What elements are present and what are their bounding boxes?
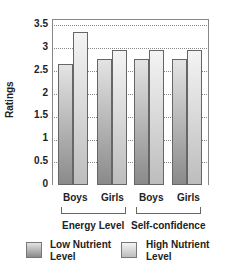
x-category: Girls xyxy=(101,192,124,203)
bar-energy-girls-high xyxy=(112,50,127,185)
x-category: Boys xyxy=(63,192,87,203)
group-label-confidence: Self-confidence xyxy=(131,220,205,231)
y-tick: 0.5 xyxy=(22,155,48,166)
legend-label-low: Low Nutrient Level xyxy=(50,239,120,263)
x-category: Girls xyxy=(177,192,200,203)
legend-swatch-low xyxy=(26,242,42,258)
y-tick: 2.5 xyxy=(22,64,48,75)
bar-confidence-boys-high xyxy=(149,50,164,185)
y-axis-label: Ratings xyxy=(4,81,15,118)
gridline xyxy=(52,25,209,26)
legend-high-line1: High Nutrient xyxy=(146,239,216,251)
group-bracket xyxy=(61,207,126,214)
legend-label-high: High Nutrient Level xyxy=(146,239,216,263)
x-category: Boys xyxy=(139,192,163,203)
legend-swatch-high xyxy=(121,242,137,258)
bar-energy-boys-low xyxy=(58,64,73,185)
y-tick: 3 xyxy=(22,41,48,52)
group-label-energy: Energy Level xyxy=(62,220,124,231)
legend-low-line1: Low Nutrient xyxy=(50,239,120,251)
group-bracket xyxy=(136,207,201,214)
bar-energy-girls-low xyxy=(97,59,112,185)
bar-confidence-girls-high xyxy=(187,50,202,185)
y-tick: 0 xyxy=(22,178,48,189)
chart-root: Ratings 0 0.5 1 1.5 2 2.5 3 3.5 Boys Gir… xyxy=(0,0,226,273)
y-tick: 2 xyxy=(22,87,48,98)
y-tick: 1 xyxy=(22,132,48,143)
legend-low-line2: Level xyxy=(50,251,120,263)
y-tick: 3.5 xyxy=(22,18,48,29)
legend-high-line2: Level xyxy=(146,251,216,263)
bar-energy-boys-high xyxy=(73,32,88,185)
bar-confidence-girls-low xyxy=(172,59,187,185)
y-tick: 1.5 xyxy=(22,109,48,120)
bar-confidence-boys-low xyxy=(134,59,149,185)
